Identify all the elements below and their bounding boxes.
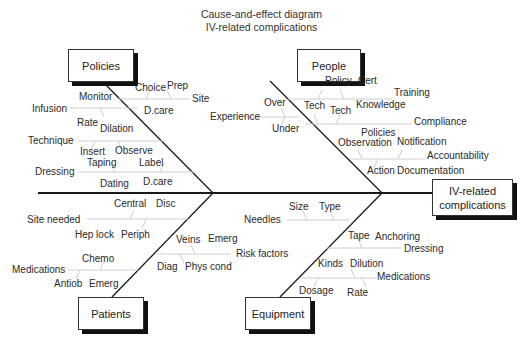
- sub-cause-label: Dating: [100, 178, 129, 190]
- sub-cause-label: Periph: [121, 229, 150, 241]
- sub-cause-label: Under: [272, 123, 299, 135]
- effect-box: IV-related complications: [432, 179, 513, 216]
- category-box-policies: Policies: [68, 49, 134, 82]
- sub-cause-label: Choice: [135, 82, 166, 94]
- cause-label: Dressing: [404, 243, 443, 255]
- diagram-title: Cause-and-effect diagram: [0, 8, 523, 21]
- sub-cause-label: Dilation: [100, 123, 133, 135]
- cause-label: Dressing: [35, 166, 74, 178]
- category-label-people: People: [312, 59, 346, 73]
- sub-cause-label: Observation: [338, 137, 392, 149]
- sub-cause-label: Taping: [87, 157, 116, 169]
- cause-label: Medications: [12, 264, 65, 276]
- cause-label: Accountability: [427, 150, 489, 162]
- sub-cause-label: Phys cond: [185, 261, 232, 273]
- cause-label: Medications: [377, 271, 430, 283]
- sub-cause-label: Antiob: [54, 278, 82, 290]
- cause-label: Experience: [210, 111, 260, 123]
- cause-label: Site needed: [27, 214, 80, 226]
- sub-cause-label: Prep: [167, 80, 188, 92]
- sub-cause-label: Diag: [157, 261, 178, 273]
- sub-cause-label: Disc: [156, 198, 175, 210]
- effect-label-line2: complications: [439, 198, 506, 212]
- sub-cause-label: Size: [289, 201, 308, 213]
- sub-cause-label: Documentation: [397, 165, 464, 177]
- sub-cause-label: D.care: [144, 105, 173, 117]
- sub-cause-label: Over: [264, 97, 286, 109]
- sub-cause-label: Tech: [330, 105, 351, 117]
- sub-cause-label: Type: [319, 201, 341, 213]
- cause-label: Site: [192, 93, 209, 105]
- sub-cause-label: Emerg: [208, 233, 237, 245]
- sub-cause-label: Veins: [176, 234, 200, 246]
- category-label-equipment: Equipment: [252, 307, 305, 321]
- sub-cause-label: Kinds: [318, 258, 343, 270]
- sub-cause-label: Chemo: [82, 253, 114, 265]
- sub-cause-label: Policy: [325, 75, 352, 87]
- sub-cause-label: Rate: [347, 287, 368, 299]
- cause-label: Training: [394, 87, 430, 99]
- sub-cause-label: Action: [367, 165, 395, 177]
- sub-cause-label: Knowledge: [356, 99, 405, 111]
- diagram-subtitle: IV-related complications: [0, 21, 523, 34]
- effect-label-line1: IV-related: [449, 184, 496, 198]
- sub-cause-label: Dilution: [350, 258, 383, 270]
- cause-label: Risk factors: [236, 248, 288, 260]
- sub-cause-label: Tape: [348, 230, 370, 242]
- category-box-equipment: Equipment: [245, 297, 311, 330]
- sub-cause-label: Notification: [397, 136, 446, 148]
- category-label-patients: Patients: [91, 307, 131, 321]
- sub-cause-label: Emerg: [89, 278, 118, 290]
- sub-cause-label: Dosage: [299, 285, 333, 297]
- category-box-patients: Patients: [78, 297, 144, 330]
- cause-label: Compliance: [414, 116, 467, 128]
- cause-label: Needles: [244, 214, 281, 226]
- cause-label: Infusion: [32, 103, 67, 115]
- sub-cause-label: Hep lock: [75, 229, 114, 241]
- category-label-policies: Policies: [82, 59, 120, 73]
- sub-cause-label: Observe: [115, 145, 153, 157]
- sub-cause-label: Monitor: [79, 91, 112, 103]
- cause-label: Technique: [28, 135, 74, 147]
- sub-cause-label: Label: [139, 157, 163, 169]
- sub-cause-label: Central: [114, 198, 146, 210]
- sub-cause-label: Rate: [77, 117, 98, 129]
- sub-cause-label: D.care: [143, 176, 172, 188]
- sub-cause-label: Tech: [304, 100, 325, 112]
- sub-cause-label: Anchoring: [375, 231, 420, 243]
- sub-cause-label: Cert: [358, 75, 377, 87]
